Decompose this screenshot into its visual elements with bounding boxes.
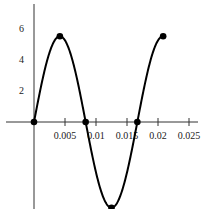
tick-labels: 0.0050.010.0150.020.025246 xyxy=(19,23,200,141)
data-point xyxy=(134,119,141,126)
data-point xyxy=(108,205,115,210)
sine-chart: 0.0050.010.0150.020.025246 xyxy=(0,0,208,209)
axes xyxy=(6,4,198,209)
y-tick-label: 6 xyxy=(19,23,24,34)
data-point xyxy=(160,33,167,40)
x-tick-label: 0.02 xyxy=(149,130,167,141)
x-tick-label: 0.025 xyxy=(178,130,201,141)
y-tick-label: 4 xyxy=(19,54,24,65)
data-point xyxy=(57,33,64,40)
data-point xyxy=(31,119,38,126)
x-tick-label: 0.005 xyxy=(54,130,77,141)
data-point xyxy=(82,119,89,126)
y-tick-label: 2 xyxy=(19,85,24,96)
